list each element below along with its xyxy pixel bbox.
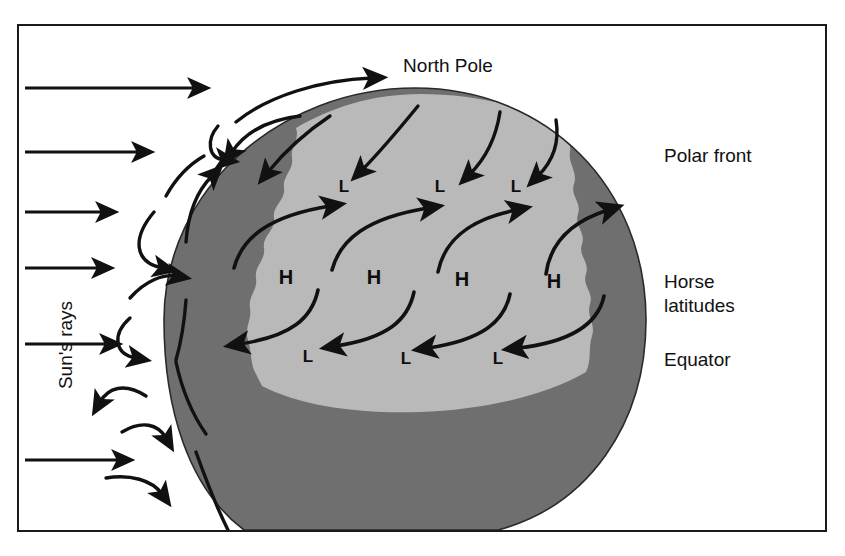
low-pressure-label: L <box>511 177 521 196</box>
suns-rays-label: Sun's rays <box>55 301 76 389</box>
figure-canvas: H H H H L L L L L L North Pole Polar fro… <box>0 0 845 556</box>
low-pressure-label: L <box>401 349 411 368</box>
horse-latitudes-label-line1: Horse <box>664 271 715 292</box>
equator-label: Equator <box>664 349 731 370</box>
hadley-loop-arrow-3 <box>122 425 166 438</box>
low-pressure-label: L <box>493 349 503 368</box>
low-pressure-label: L <box>339 177 349 196</box>
low-pressure-label: L <box>435 177 445 196</box>
polar-front-label: Polar front <box>664 145 752 166</box>
low-pressure-label: L <box>303 347 313 366</box>
high-pressure-label: H <box>547 270 561 292</box>
horse-latitudes-label-line2: latitudes <box>664 295 735 316</box>
hadley-descend-arrow-1 <box>139 212 162 268</box>
equator-rising-arrow <box>106 477 162 494</box>
high-pressure-label: H <box>367 266 381 288</box>
cell-connector-1 <box>166 156 204 196</box>
circulation-diagram: H H H H L L L L L L North Pole Polar fro… <box>0 0 845 556</box>
high-pressure-label: H <box>279 266 293 288</box>
high-pressure-label: H <box>455 268 469 290</box>
polar-hook-arrow <box>210 126 224 160</box>
hadley-loop-arrow-2 <box>100 388 146 402</box>
hadley-loop-arrow-1 <box>118 318 136 358</box>
north-pole-label: North Pole <box>403 55 493 76</box>
